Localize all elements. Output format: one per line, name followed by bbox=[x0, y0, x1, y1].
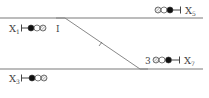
signal-x5-subscript: 5 bbox=[192, 10, 196, 17]
signal-x7-subscript: 7 bbox=[191, 60, 195, 67]
signal-x5-lamp-hatched-icon bbox=[155, 7, 161, 13]
signal-x5: X 5 bbox=[155, 5, 196, 17]
signal-x3-lamp-red-icon bbox=[29, 75, 35, 81]
signal-x3: X 3 bbox=[9, 73, 47, 85]
signal-x3-subscript: 3 bbox=[16, 78, 20, 85]
signal-x7-lamp-hatched-icon bbox=[153, 57, 159, 63]
insulated-joint-marker: I bbox=[56, 24, 60, 34]
signal-x1: X 1 I bbox=[9, 23, 60, 35]
signal-x7-lamp-open-icon bbox=[159, 57, 165, 63]
signal-layout-diagram: X 1 I X 5 3 X 7 X 3 bbox=[0, 0, 209, 98]
signal-x1-lamp-red-icon bbox=[28, 25, 34, 31]
signal-x5-lamp-open-icon bbox=[161, 7, 167, 13]
signal-x1-subscript: 1 bbox=[16, 28, 20, 35]
crossover-track bbox=[56, 18, 148, 69]
signal-x7-lamp-red-icon bbox=[166, 57, 172, 63]
signal-x3-lamp-open-icon bbox=[35, 75, 41, 81]
signal-x3-lamp-hatched-icon bbox=[41, 75, 47, 81]
signal-x7: 3 X 7 bbox=[145, 55, 195, 67]
signal-x5-lamp-red-icon bbox=[167, 7, 173, 13]
signal-x1-lamp-hatched-icon bbox=[40, 25, 46, 31]
signal-x1-lamp-open-icon bbox=[34, 25, 40, 31]
switch-number-3: 3 bbox=[145, 56, 151, 66]
